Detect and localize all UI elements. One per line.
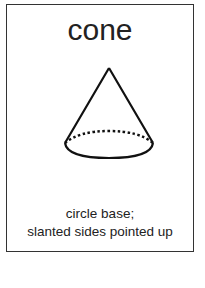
description-line-1: circle base; <box>7 205 193 223</box>
card-description: circle base; slanted sides pointed up <box>7 205 193 241</box>
description-line-2: slanted sides pointed up <box>7 223 193 241</box>
shape-card: cone circle base; slanted sides pointed … <box>6 4 194 252</box>
